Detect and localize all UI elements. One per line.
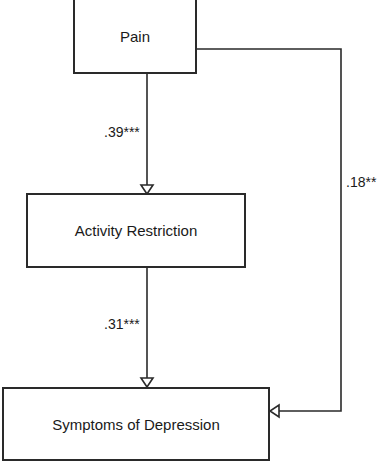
edge-label-pain-depression: .18**	[346, 174, 376, 190]
node-label: Activity Restriction	[75, 222, 198, 239]
edge-label-pain-activity: .39***	[104, 124, 140, 140]
node-label: Pain	[120, 28, 150, 45]
node-symptoms-of-depression: Symptoms of Depression	[2, 387, 270, 461]
node-pain: Pain	[73, 0, 197, 74]
node-label: Symptoms of Depression	[52, 416, 220, 433]
node-activity-restriction: Activity Restriction	[26, 193, 246, 268]
arrowhead-icon	[270, 405, 279, 417]
edge-label-activity-depression: .31***	[104, 316, 140, 332]
arrowhead-icon	[141, 378, 153, 387]
